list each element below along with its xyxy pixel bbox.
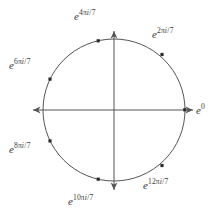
label-e10pi-exponent: 10πi/7 — [73, 193, 93, 202]
roots-of-unity-figure: e0 e2πi/7 e4πi/7 e6πi/7 e8πi/7 e10πi/7 e… — [0, 0, 224, 219]
label-e4pi-exponent: 4πi/7 — [79, 8, 96, 17]
root-point-2 — [97, 39, 100, 42]
label-e-6pi-i-over-7: e6πi/7 — [9, 58, 31, 71]
label-e2pi-exponent: 2πi/7 — [157, 26, 174, 35]
root-point-1 — [160, 53, 163, 56]
root-point-6 — [160, 164, 163, 167]
unit-circle-diagram — [0, 0, 224, 219]
label-e-4pi-i-over-7: e4πi/7 — [74, 9, 96, 22]
label-e6pi-exponent: 6πi/7 — [14, 57, 31, 66]
label-e12pi-exponent: 12πi/7 — [148, 177, 168, 186]
label-e-0: e0 — [196, 103, 205, 116]
label-e8pi-exponent: 8πi/7 — [14, 141, 31, 150]
root-point-4 — [48, 139, 51, 142]
root-point-5 — [97, 178, 100, 181]
root-point-0 — [183, 108, 186, 111]
label-e-12pi-i-over-7: e12πi/7 — [143, 178, 168, 191]
label-e0-exponent: 0 — [201, 102, 205, 111]
axes-group — [33, 31, 193, 190]
label-e-8pi-i-over-7: e8πi/7 — [9, 142, 31, 155]
label-e-10pi-i-over-7: e10πi/7 — [68, 194, 93, 207]
label-e-2pi-i-over-7: e2πi/7 — [152, 27, 174, 40]
root-point-3 — [48, 78, 51, 81]
